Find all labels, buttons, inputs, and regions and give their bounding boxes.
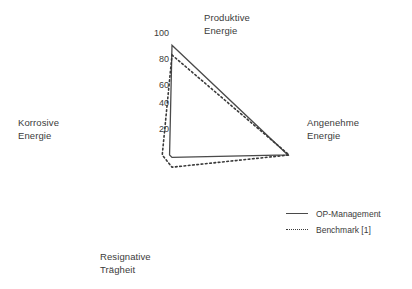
legend-item-op-management: OP-Management [286, 206, 381, 222]
legend-label-benchmark: Benchmark [1] [316, 225, 371, 236]
legend-solid-line-icon [286, 209, 308, 219]
radar-plot-area [0, 0, 412, 289]
legend-dotted-line-icon [286, 225, 308, 235]
series-polygon-op-management [170, 45, 288, 157]
series-polygon-benchmark [162, 55, 289, 167]
legend-item-benchmark: Benchmark [1] [286, 222, 381, 238]
chart-legend: OP-Management Benchmark [1] [286, 206, 381, 238]
radar-chart-figure: Produktive Energie Angenehme Energie Res… [0, 0, 412, 289]
legend-label-op-management: OP-Management [316, 209, 381, 220]
